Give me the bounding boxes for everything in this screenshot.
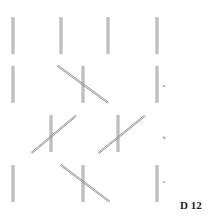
plate-label: D 12 <box>180 199 202 211</box>
cross-figure <box>98 115 146 154</box>
vertical-line <box>12 17 14 54</box>
vertical-line <box>107 17 109 54</box>
cross-figure <box>31 115 77 154</box>
row-c: c <box>12 164 166 202</box>
row-label-b: b <box>163 135 166 140</box>
figure-canvas: a b <box>0 0 213 218</box>
cross-figure <box>60 164 110 202</box>
vertical-line <box>156 66 158 103</box>
vertical-line <box>60 17 62 54</box>
vertical-line <box>12 66 14 103</box>
diagonal-line <box>60 164 110 202</box>
cross-figure <box>57 65 108 103</box>
vertical-line <box>82 165 84 202</box>
row-a: a <box>12 65 166 103</box>
vertical-line <box>156 17 158 54</box>
diagonal-line <box>31 115 77 153</box>
row-b: b <box>31 115 166 154</box>
row-label-a: a <box>163 83 166 88</box>
vertical-line <box>12 165 14 202</box>
vertical-line <box>117 115 119 152</box>
row-reference <box>12 17 158 54</box>
row-label-c: c <box>163 179 166 184</box>
vertical-line <box>156 165 158 202</box>
vertical-line <box>50 115 52 152</box>
diagonal-line <box>98 115 146 153</box>
